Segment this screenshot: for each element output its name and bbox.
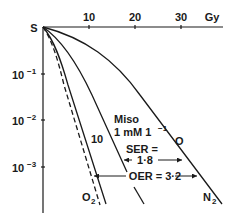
label-oer: OER = 3·2 — [129, 170, 181, 182]
y-axis-label: S — [30, 22, 37, 34]
svg-text:−2: −2 — [27, 113, 37, 122]
svg-text:10: 10 — [12, 115, 24, 127]
label-n2: N 2 — [203, 191, 217, 206]
svg-text:O: O — [82, 191, 91, 203]
svg-text:2: 2 — [91, 197, 96, 206]
curve-miso-1mM-lower — [134, 187, 144, 204]
x-tick-label-30: 30 — [175, 11, 187, 23]
x-axis-unit: Gy — [205, 11, 221, 23]
label-o2: O 2 — [82, 191, 96, 206]
svg-text:10: 10 — [12, 162, 24, 174]
label-curve-10: 10 — [91, 133, 103, 145]
curve-miso-10mM — [43, 27, 106, 204]
label-miso: Miso — [114, 113, 139, 125]
label-ser-value: 1·8 — [137, 154, 153, 166]
label-miso-exp: −1 — [158, 124, 168, 133]
x-tick-label-20: 20 — [129, 11, 141, 23]
y-tick-label-1e-3: 10 −3 — [12, 160, 37, 174]
y-tick-label-1e-2: 10 −2 — [12, 113, 37, 127]
svg-text:−3: −3 — [27, 160, 37, 169]
y-tick-label-1e-1: 10 −1 — [12, 67, 37, 81]
x-tick-label-10: 10 — [83, 11, 95, 23]
svg-text:2: 2 — [212, 197, 217, 206]
label-o: O — [175, 135, 184, 147]
label-miso-conc: 1 mM 1 — [114, 126, 151, 138]
survival-curve-chart: 10 20 30 Gy S 10 −1 10 −2 10 −3 10 Miso … — [0, 0, 239, 224]
svg-text:−1: −1 — [27, 67, 37, 76]
curve-o2-dashed — [43, 27, 100, 205]
svg-text:10: 10 — [12, 69, 24, 81]
svg-text:N: N — [203, 191, 211, 203]
